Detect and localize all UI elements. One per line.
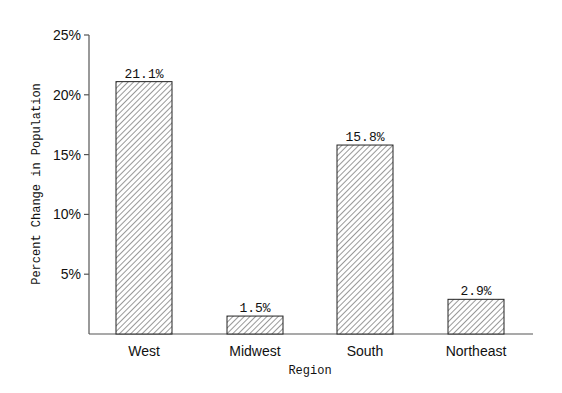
- bar-value-label: 2.9%: [460, 284, 491, 299]
- bar-rect: [227, 316, 283, 334]
- y-tick-label: 25%: [53, 27, 81, 43]
- bar-rect: [448, 299, 504, 334]
- bar-northeast: 2.9%Northeast: [446, 284, 507, 359]
- bars: 21.1%West1.5%Midwest15.8%South2.9%Northe…: [116, 67, 506, 359]
- y-tick-label: 20%: [53, 87, 81, 103]
- bar-midwest: 1.5%Midwest: [227, 301, 283, 359]
- y-axis-title: Percent Change in Population: [30, 83, 44, 285]
- y-tick-label: 15%: [53, 147, 81, 163]
- bar-rect: [116, 82, 172, 334]
- x-category-label: South: [347, 343, 384, 359]
- bar-rect: [337, 145, 393, 334]
- x-category-label: West: [128, 343, 160, 359]
- x-category-label: Northeast: [446, 343, 507, 359]
- y-tick-label: 5%: [61, 266, 81, 282]
- y-axis: 5%10%15%20%25%: [53, 27, 89, 334]
- x-axis-title: Region: [288, 364, 331, 378]
- bar-south: 15.8%South: [337, 130, 393, 359]
- bar-west: 21.1%West: [116, 67, 172, 359]
- bar-chart: 5%10%15%20%25% 21.1%West1.5%Midwest15.8%…: [0, 0, 562, 393]
- bar-value-label: 21.1%: [124, 67, 163, 82]
- bar-value-label: 15.8%: [345, 130, 384, 145]
- x-category-label: Midwest: [229, 343, 280, 359]
- bar-value-label: 1.5%: [239, 301, 270, 316]
- y-tick-label: 10%: [53, 206, 81, 222]
